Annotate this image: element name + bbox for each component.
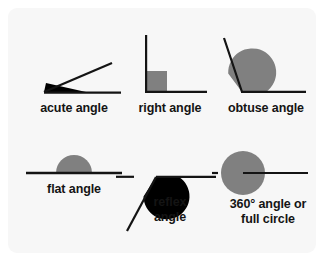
acute-angle-figure	[22, 54, 126, 100]
reflex-angle-label: reflex angle	[116, 195, 224, 225]
obtuse-angle-figure	[214, 32, 318, 100]
full-circle-figure	[212, 150, 324, 198]
flat-angle-figure	[20, 150, 128, 182]
right-angle-figure	[120, 32, 220, 100]
diagram-reflex-angle: reflex angle	[116, 148, 224, 248]
acute-angle-marker	[44, 83, 86, 92]
diagram-full-circle: 360° angle or full circle	[212, 150, 324, 244]
diagram-flat-angle: flat angle	[20, 150, 128, 208]
right-angle-label: right angle	[120, 101, 220, 116]
flat-angle-label: flat angle	[20, 182, 128, 197]
diagram-obtuse-angle: obtuse angle	[214, 32, 318, 124]
diagram-card: acute angle right angle obtuse angle	[8, 8, 316, 253]
diagram-right-angle: right angle	[120, 32, 220, 124]
right-angle-marker	[146, 71, 167, 92]
diagram-acute-angle: acute angle	[22, 54, 126, 124]
flat-angle-marker	[56, 155, 92, 173]
acute-angle-ray-upper	[44, 63, 112, 92]
obtuse-angle-label: obtuse angle	[214, 101, 318, 116]
full-circle-label: 360° angle or full circle	[212, 197, 324, 227]
acute-angle-label: acute angle	[22, 101, 126, 116]
